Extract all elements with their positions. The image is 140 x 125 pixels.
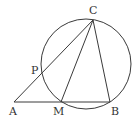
label-B: B <box>111 105 119 118</box>
label-C: C <box>89 4 97 17</box>
label-P: P <box>31 64 39 77</box>
geometry-diagram: C P A M B <box>0 0 140 125</box>
label-A: A <box>8 105 18 118</box>
segment-CM <box>61 20 93 102</box>
label-M: M <box>53 105 64 118</box>
circumcircle <box>41 19 131 109</box>
segment-CB <box>93 20 110 102</box>
